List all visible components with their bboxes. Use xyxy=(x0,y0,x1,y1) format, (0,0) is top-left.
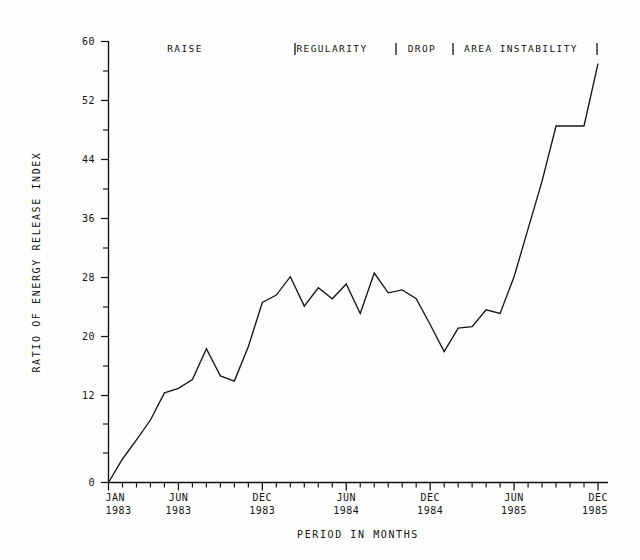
annotation-regularity: REGULARITY xyxy=(296,43,367,54)
x-tick-label-month: JUN xyxy=(336,492,356,503)
x-tick-label-year: 1983 xyxy=(249,505,275,516)
y-tick-label-28: 28 xyxy=(82,272,95,283)
x-axis-ticks xyxy=(109,483,599,491)
y-axis-title: RATIO OF ENERGY RELEASE INDEX xyxy=(31,152,42,373)
x-tick-label-year: 1984 xyxy=(417,505,443,516)
x-tick-label-year: 1984 xyxy=(333,505,359,516)
energy-release-index-series xyxy=(109,64,599,483)
y-tick-label-52: 52 xyxy=(82,95,95,106)
annotation-raise: RAISE xyxy=(167,43,203,54)
y-tick-label-12: 12 xyxy=(82,390,95,401)
y-tick-label-36: 36 xyxy=(82,213,95,224)
x-tick-label-year: 1985 xyxy=(582,505,608,516)
x-tick-label-year: 1983 xyxy=(165,505,191,516)
chart-page: 60 52 44 36 28 20 12 0 JAN1983JUN1983DEC… xyxy=(0,0,640,560)
x-tick-label-year: 1985 xyxy=(501,505,527,516)
x-tick-label-month: JAN xyxy=(106,492,126,503)
x-tick-label-month: DEC xyxy=(253,492,273,503)
y-axis-tick-labels: 60 52 44 36 28 20 12 0 xyxy=(82,36,95,488)
x-tick-label-month: JUN xyxy=(504,492,524,503)
annotation-area-instability: AREA INSTABILITY xyxy=(464,43,578,54)
annotation-labels: RAISE REGULARITY DROP AREA INSTABILITY xyxy=(167,43,578,54)
x-tick-label-month: DEC xyxy=(420,492,440,503)
energy-release-index-line-chart: 60 52 44 36 28 20 12 0 JAN1983JUN1983DEC… xyxy=(0,0,640,560)
annotation-drop: DROP xyxy=(408,43,436,54)
x-tick-label-year: 1983 xyxy=(106,505,132,516)
x-tick-label-month: JUN xyxy=(169,492,189,503)
x-axis-tick-labels: JAN1983JUN1983DEC1983JUN1984DEC1984JUN19… xyxy=(106,492,609,516)
y-tick-label-20: 20 xyxy=(82,331,95,342)
y-tick-label-60: 60 xyxy=(82,36,95,47)
y-tick-label-44: 44 xyxy=(82,154,95,165)
y-axis-ticks xyxy=(101,42,109,483)
x-tick-label-month: DEC xyxy=(588,492,608,503)
y-tick-label-0: 0 xyxy=(88,477,95,488)
x-axis-title: PERIOD IN MONTHS xyxy=(297,529,419,540)
